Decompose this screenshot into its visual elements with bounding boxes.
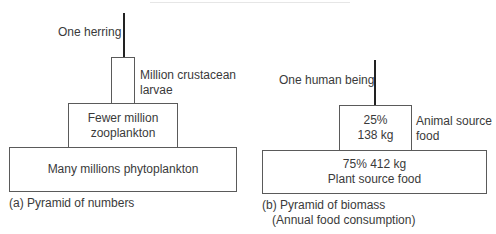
animal-food-label: Animal source food bbox=[416, 114, 492, 144]
numbers-caption: (a) Pyramid of numbers bbox=[9, 196, 134, 211]
top-cutoff-text bbox=[150, 0, 350, 3]
larvae-box bbox=[111, 57, 135, 104]
zooplankton-box: Fewer million zooplankton bbox=[68, 103, 178, 148]
herring-label: One herring bbox=[58, 25, 121, 40]
biomass-caption: (b) Pyramid of biomass (Annual food cons… bbox=[262, 198, 415, 228]
herring-line bbox=[123, 13, 125, 58]
phytoplankton-box: Many millions phytoplankton bbox=[9, 147, 237, 192]
larvae-label: Million crustacean larvae bbox=[140, 68, 236, 98]
animal-food-box: 25% 138 kg bbox=[339, 105, 412, 151]
plant-food-box: 75% 412 kg Plant source food bbox=[262, 150, 487, 194]
human-label: One human being bbox=[279, 73, 374, 88]
